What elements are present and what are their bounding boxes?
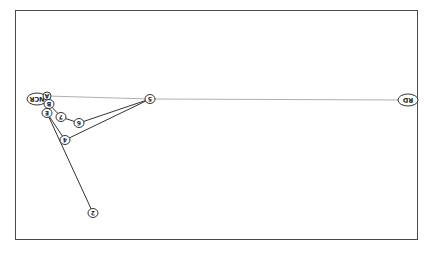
node-a: A xyxy=(43,92,51,100)
graph-canvas: NCRABE76452RD xyxy=(0,0,435,255)
node-label: A xyxy=(44,93,49,100)
node-label: 4 xyxy=(63,137,67,144)
edge-A-5 xyxy=(47,96,150,99)
node-b: B xyxy=(44,100,54,109)
node-5: 5 xyxy=(145,95,155,104)
node-label: NCR xyxy=(29,95,44,103)
node-7: 7 xyxy=(56,113,66,122)
edge-E-2 xyxy=(47,113,93,213)
edges-layer xyxy=(47,96,408,213)
edge-5-RD xyxy=(150,99,408,100)
node-label: 5 xyxy=(148,96,152,103)
node-4: 4 xyxy=(60,136,70,145)
node-label: 7 xyxy=(59,114,63,121)
node-2: 2 xyxy=(88,209,98,218)
nodes-layer: NCRABE76452RD xyxy=(27,92,418,218)
node-e: E xyxy=(42,109,52,118)
edge-6-5 xyxy=(79,99,150,123)
node-label: E xyxy=(45,110,49,117)
node-rd: RD xyxy=(398,94,418,106)
node-label: 2 xyxy=(91,210,95,217)
node-label: RD xyxy=(402,96,413,104)
node-6: 6 xyxy=(74,119,84,128)
node-label: 6 xyxy=(77,120,81,127)
node-label: B xyxy=(46,101,51,108)
